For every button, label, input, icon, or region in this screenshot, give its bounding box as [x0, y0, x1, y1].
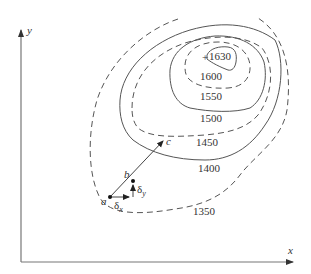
label-1350: 1350: [193, 205, 216, 217]
contour-labels: 1630 1600 1550 1500 1450 1400 1350: [193, 50, 232, 217]
label-a: a: [101, 195, 107, 207]
label-b: b: [124, 168, 130, 180]
gradient-vectors: [108, 141, 163, 199]
peak-marker: +: [202, 51, 208, 63]
contour-diagram: y x + 1630 1600 1550 1500 1450: [0, 0, 311, 274]
contour-plot-svg: y x + 1630 1600 1550 1500 1450: [0, 0, 311, 274]
label-c: c: [166, 135, 171, 147]
axes: y x: [21, 24, 293, 262]
label-1550: 1550: [200, 90, 223, 102]
label-delta-y: δy: [137, 183, 146, 198]
label-1600: 1600: [200, 70, 223, 82]
label-1630: 1630: [209, 50, 232, 62]
label-delta-x: δx: [114, 199, 123, 214]
label-1500: 1500: [200, 112, 223, 124]
point-b-dot: [131, 179, 135, 183]
label-1450: 1450: [196, 136, 219, 148]
contour-lines: +: [90, 18, 288, 213]
point-a-dot: [108, 195, 112, 199]
x-axis-label: x: [287, 244, 293, 256]
vector-labels: a b c δx δy: [101, 135, 171, 214]
label-1400: 1400: [198, 162, 221, 174]
y-axis-label: y: [26, 24, 32, 36]
contour-1350: [90, 18, 288, 213]
